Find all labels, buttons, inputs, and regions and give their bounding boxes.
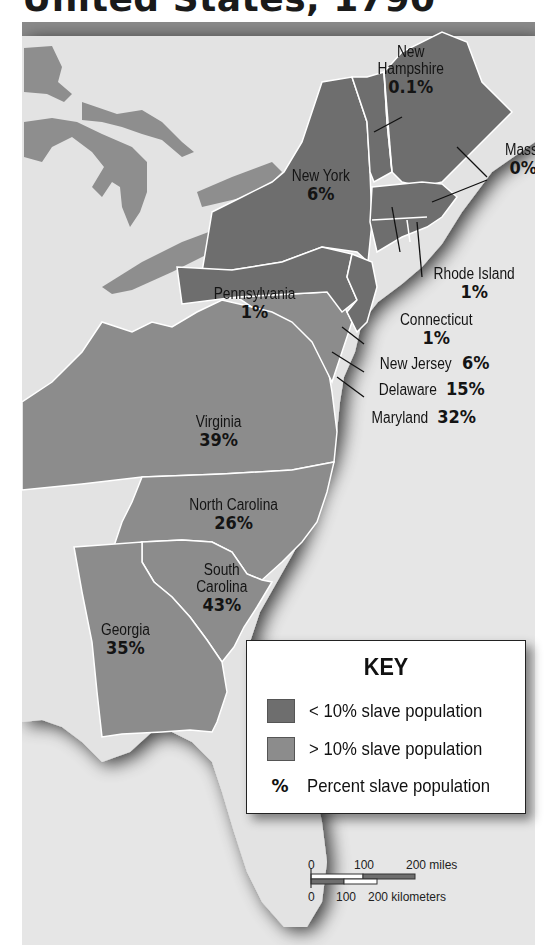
scale-bar: 0 100 200 miles 0 100 200 kilometers <box>306 858 476 908</box>
label-pennsylvania: Pennsylvania 1% <box>207 286 302 322</box>
label-new-york: New York 6% <box>287 168 355 204</box>
swatch-dark-icon <box>267 699 295 723</box>
label-mass: Mass. 0% <box>502 142 535 178</box>
label-south-carolina: South Carolina 43% <box>192 562 252 614</box>
label-north-carolina: North Carolina 26% <box>182 497 285 533</box>
label-georgia: Georgia 35% <box>97 622 154 658</box>
label-maryland: Maryland 32% <box>367 408 476 427</box>
map-legend: KEY < 10% slave population > 10% slave p… <box>246 640 526 814</box>
legend-item-above-10: > 10% slave population <box>267 736 506 762</box>
label-delaware: Delaware 15% <box>374 380 485 399</box>
legend-title: KEY <box>261 653 511 681</box>
swatch-light-icon <box>267 737 295 761</box>
map-title: United States, 1790 <box>22 0 436 19</box>
percent-symbol-icon: % <box>267 776 293 796</box>
label-virginia: Virginia 39% <box>192 414 245 450</box>
legend-item-percent: % Percent slave population <box>267 773 515 799</box>
label-new-jersey: New Jersey 6% <box>374 354 490 373</box>
legend-item-below-10: < 10% slave population <box>267 698 506 724</box>
label-new-hampshire: New Hampshire 0.1% <box>372 44 449 96</box>
label-connecticut: Connecticut 1% <box>394 312 479 348</box>
label-rhode-island: Rhode Island 1% <box>427 266 521 302</box>
